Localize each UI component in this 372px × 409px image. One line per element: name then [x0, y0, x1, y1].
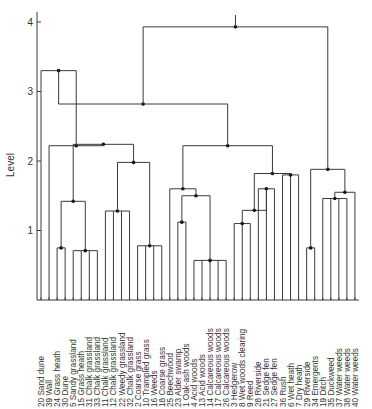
dendrogram-tree: [41, 15, 355, 300]
y-axis: 1234: [27, 12, 359, 300]
y-tick-label: 4: [27, 17, 33, 28]
y-tick-label: 1: [27, 225, 33, 236]
dendrogram-figure: 1234 20 Sand dune39 Wall24 Grass heath30…: [0, 0, 372, 409]
y-tick-label: 2: [27, 156, 33, 167]
y-axis-label: Level: [5, 153, 16, 177]
y-tick-label: 3: [27, 86, 33, 97]
leaf-labels: 20 Sand dune39 Wall24 Grass heath30 Dune…: [37, 328, 360, 407]
leaf-label: 40 Water weeds: [351, 348, 360, 407]
dendrogram-chart: 1234 20 Sand dune39 Wall24 Grass heath30…: [0, 0, 372, 409]
